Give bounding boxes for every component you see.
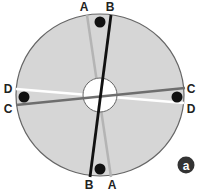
weight-dot-left (19, 92, 30, 103)
label-top-b: B (106, 0, 115, 14)
label-right-d: D (187, 102, 196, 116)
label-left-d: D (4, 82, 13, 96)
label-top-a: A (80, 0, 89, 14)
weight-dot-right (172, 92, 183, 103)
weight-dot-bottom (95, 164, 106, 175)
disc-diagram: A B D C C D B A a (0, 0, 199, 192)
label-right-c: C (187, 82, 196, 96)
figure-badge-label: a (183, 159, 190, 173)
label-bottom-b: B (85, 178, 94, 192)
label-bottom-a: A (108, 178, 117, 192)
weight-dot-top (95, 17, 106, 28)
label-left-c: C (4, 102, 13, 116)
